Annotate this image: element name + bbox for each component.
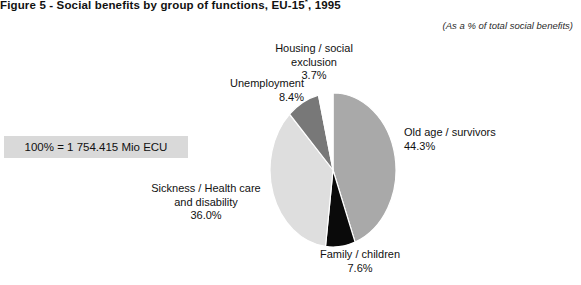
chart-subtitle: (As a % of total social benefits)	[443, 20, 573, 31]
slice-label-family-name: Family / children	[296, 248, 424, 262]
slice-label-housing-name-line1: Housing / social	[252, 42, 376, 56]
pie-chart	[268, 92, 398, 248]
page-title: Figure 5 - Social benefits by group of f…	[0, 0, 341, 11]
slice-label-family-value: 7.6%	[296, 262, 424, 276]
slice-label-housing-value: 3.7%	[252, 69, 376, 83]
slice-label-unemployment-value: 8.4%	[186, 91, 304, 105]
slice-label-sickness-name-line2: and disability	[132, 196, 280, 210]
slice-label-sickness-value: 36.0%	[132, 209, 280, 223]
slice-label-old-age-value: 44.3%	[404, 140, 496, 154]
slice-label-sickness: Sickness / Health care and disability 36…	[132, 182, 280, 223]
figure-title-year: , 1995	[308, 0, 341, 11]
pie-chart-svg	[268, 92, 398, 248]
pie-slice-group	[270, 93, 396, 247]
figure-title-main: Figure 5 - Social benefits by group of f…	[0, 0, 305, 11]
total-value-text: 100% = 1 754.415 Mio ECU	[25, 141, 168, 153]
slice-label-housing-name-line2: exclusion	[252, 56, 376, 70]
slice-label-housing: Housing / social exclusion 3.7%	[252, 42, 376, 83]
slice-label-family: Family / children 7.6%	[296, 248, 424, 275]
slice-label-sickness-name-line1: Sickness / Health care	[132, 182, 280, 196]
slice-label-old-age-name: Old age / survivors	[404, 126, 496, 140]
figure-container: Figure 5 - Social benefits by group of f…	[0, 0, 581, 285]
slice-label-old-age: Old age / survivors 44.3%	[404, 126, 496, 153]
total-value-box: 100% = 1 754.415 Mio ECU	[4, 136, 188, 158]
